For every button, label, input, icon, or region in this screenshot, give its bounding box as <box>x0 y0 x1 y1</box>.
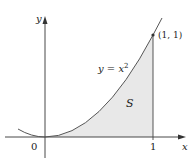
point-label: (1, 1) <box>158 30 182 40</box>
region-label: S <box>126 97 134 110</box>
shaded-region-s <box>45 35 153 137</box>
origin-label: 0 <box>31 141 37 152</box>
point-1-1 <box>151 33 154 36</box>
figure: y x 0 1 (1, 1) S y = x2 <box>0 0 195 163</box>
x-axis-arrow-icon <box>178 135 186 140</box>
tick-1-label: 1 <box>150 141 156 152</box>
parabola-diagram: y x 0 1 (1, 1) S y = x2 <box>0 0 195 163</box>
y-axis-arrow-icon <box>43 16 48 24</box>
curve-label-exponent: 2 <box>124 62 128 70</box>
curve-label: y = x2 <box>97 62 129 74</box>
x-axis-label: x <box>182 141 188 152</box>
y-axis-label: y <box>35 13 42 24</box>
curve-label-base: y = x <box>97 63 124 74</box>
